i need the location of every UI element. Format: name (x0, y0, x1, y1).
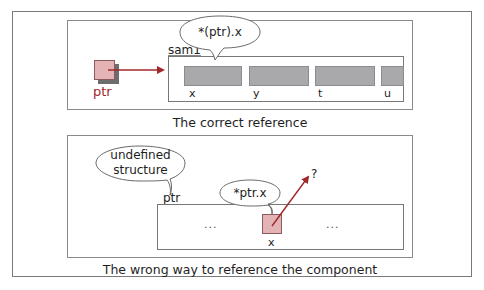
bubble-text-wrong: *ptr.x (220, 186, 280, 200)
undefined-pointer-arrow (272, 177, 308, 226)
bubble-text-correct: *(ptr).x (180, 25, 260, 39)
diagram-overlay (0, 0, 484, 290)
bubble-text-undefined-line2: structure (96, 163, 185, 177)
question-mark: ? (311, 168, 317, 180)
bubble-text-undefined-line1: undefined (96, 148, 185, 162)
